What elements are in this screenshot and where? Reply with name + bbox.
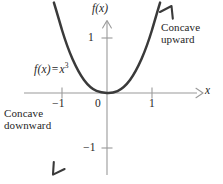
equation-exponent: 3 bbox=[65, 61, 69, 70]
concavity-cubic-figure: f(x) x 1 −1 −1 1 0 f(x)=x3 Concave upwar… bbox=[0, 0, 223, 184]
curve-arrowhead-lower bbox=[53, 162, 65, 175]
x-axis-label: x bbox=[205, 84, 210, 97]
y-tick-label-neg1: −1 bbox=[83, 141, 96, 154]
cubic-curve bbox=[53, 3, 173, 175]
y-tick-label-1: 1 bbox=[88, 31, 94, 44]
curve-arrowhead-upper bbox=[160, 6, 173, 19]
annotation-concave-downward-line1: Concave bbox=[4, 107, 51, 119]
origin-label: 0 bbox=[95, 97, 101, 110]
equation-function-part: f(x) bbox=[34, 63, 51, 75]
annotation-concave-downward-line2: downward bbox=[4, 119, 51, 131]
annotation-concave-upward: Concave upward bbox=[161, 21, 200, 46]
x-tick-label-neg1: −1 bbox=[52, 97, 65, 110]
annotation-concave-downward: Concave downward bbox=[4, 107, 51, 132]
x-tick-label-1: 1 bbox=[149, 97, 155, 110]
function-equation-label: f(x)=x3 bbox=[34, 62, 69, 76]
annotation-concave-upward-line2: upward bbox=[161, 33, 200, 45]
y-axis bbox=[103, 21, 112, 176]
annotation-concave-upward-line1: Concave bbox=[161, 21, 200, 33]
x-axis-arrowhead bbox=[196, 88, 203, 97]
y-axis-label: f(x) bbox=[92, 2, 108, 15]
